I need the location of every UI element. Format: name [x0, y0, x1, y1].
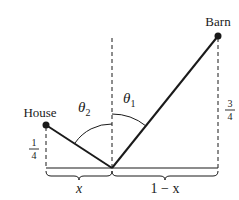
- theta1-subscript: 1: [130, 98, 135, 109]
- house-barn-diagram: House Barn θ2 θ1 1 4 3 4 x 1 − x: [0, 0, 239, 200]
- house-height-fraction: 1 4: [29, 137, 39, 161]
- barn-height-denominator: 4: [228, 111, 233, 122]
- house-label: House: [23, 105, 56, 120]
- right-segment-label: 1 − x: [151, 181, 180, 196]
- house-height-denominator: 4: [32, 150, 37, 161]
- barn-dot: [215, 33, 222, 40]
- barn-height-numerator: 3: [228, 98, 233, 109]
- house-to-point-segment: [46, 125, 112, 168]
- house-height-numerator: 1: [32, 137, 37, 148]
- barn-label: Barn: [205, 14, 231, 29]
- theta2-angle-arc: [75, 124, 112, 143]
- left-segment-label: x: [75, 181, 83, 196]
- theta2-label: θ2: [78, 99, 90, 118]
- left-segment-brace: [46, 171, 112, 180]
- theta1-label: θ1: [123, 90, 135, 109]
- theta1-angle-arc: [112, 114, 146, 126]
- right-segment-brace: [112, 171, 218, 180]
- house-dot: [43, 122, 50, 129]
- barn-height-fraction: 3 4: [225, 98, 235, 122]
- theta2-subscript: 2: [85, 107, 90, 118]
